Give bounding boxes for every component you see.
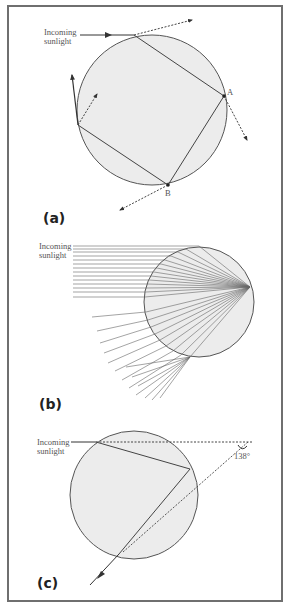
panel-a-diagram (72, 20, 247, 210)
raindrop-c (70, 431, 198, 559)
panel-label-c: (c) (37, 575, 58, 591)
incoming-sunlight-label-b: Incoming sunlight (39, 242, 72, 260)
panel-b-diagram (73, 246, 254, 400)
arrow-icon (105, 32, 112, 38)
incoming-sunlight-label-c: Incoming sunlight (37, 438, 70, 456)
panel-c-diagram (70, 431, 253, 585)
raindrop-a (77, 35, 227, 185)
panel-label-b: (b) (39, 396, 62, 412)
angle-label: 138° (234, 452, 250, 461)
label-line-2: sunlight (37, 447, 70, 456)
raindrop-diagram (0, 0, 291, 606)
arrow-icon (97, 571, 105, 579)
point-b-label: B (165, 189, 171, 198)
incoming-sunlight-label-a: Incoming sunlight (44, 28, 77, 46)
label-line-2: sunlight (39, 251, 72, 260)
panel-label-a: (a) (43, 210, 65, 226)
label-line-2: sunlight (44, 37, 77, 46)
point-a-label: A (227, 88, 233, 97)
